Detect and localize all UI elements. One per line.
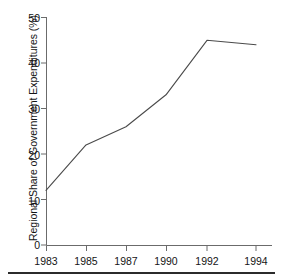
plot-area — [0, 0, 283, 280]
y-tick-marks — [41, 18, 47, 246]
data-series-line — [46, 40, 256, 190]
footer-rule — [8, 272, 275, 274]
chart-figure: Regional Share of Government Expenditure… — [0, 0, 283, 280]
x-tick-marks — [47, 246, 257, 252]
axis-spine — [47, 17, 273, 246]
